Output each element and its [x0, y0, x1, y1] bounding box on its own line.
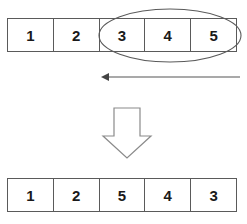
reverse-direction-arrow [100, 68, 240, 86]
array-cell: 1 [8, 179, 54, 211]
before-array: 1 2 3 4 5 [7, 18, 237, 52]
transform-down-arrow [98, 106, 156, 160]
array-cell: 5 [191, 19, 236, 51]
array-cell: 2 [54, 179, 100, 211]
array-cell: 5 [100, 179, 146, 211]
array-cell: 3 [191, 179, 236, 211]
array-cell: 2 [54, 19, 100, 51]
array-cell: 4 [145, 179, 191, 211]
array-cell: 4 [145, 19, 191, 51]
array-cell: 3 [100, 19, 146, 51]
after-array: 1 2 5 4 3 [7, 178, 237, 212]
array-cell: 1 [8, 19, 54, 51]
diagram-canvas: 1 2 3 4 5 1 2 5 4 3 [0, 0, 247, 224]
